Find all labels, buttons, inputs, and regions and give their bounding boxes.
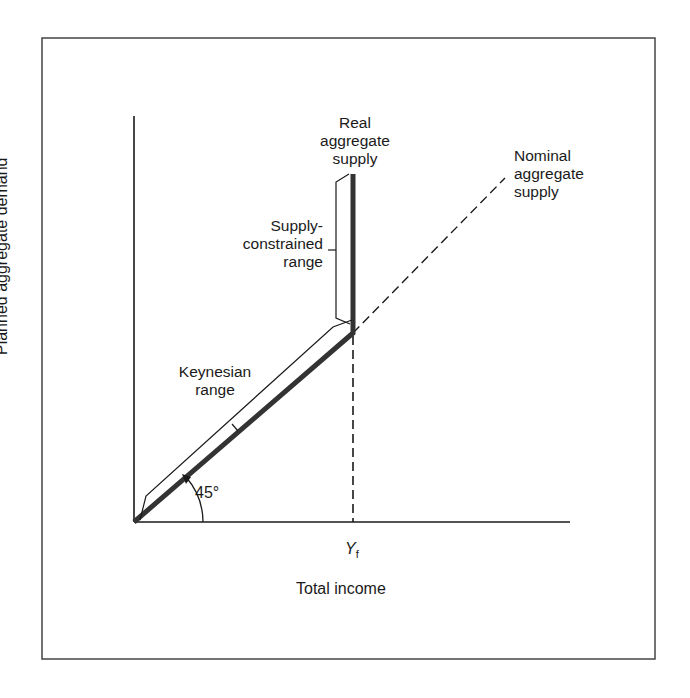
angle-label: 45° (195, 484, 219, 502)
real-supply-label-line3: supply (300, 150, 410, 168)
yf-label-sub: f (356, 548, 359, 560)
nominal-supply-label-line2: aggregate (514, 165, 584, 183)
supply-constrained-label-line1: Supply- (210, 217, 323, 235)
real-supply-label-line1: Real (300, 114, 410, 132)
nominal-supply-label-line3: supply (514, 183, 584, 201)
supply-constrained-label-line2: constrained (210, 235, 323, 253)
keynesian-brace-tick (232, 424, 238, 431)
keynesian-label-line2: range (160, 381, 270, 399)
y-axis-label: Planned aggregate demand (0, 158, 11, 356)
nominal-supply-label-line1: Nominal (514, 147, 584, 165)
nominal-supply-label: Nominal aggregate supply (514, 147, 584, 201)
diagram-stage: Real aggregate supply Nominal aggregate … (0, 0, 690, 698)
keynesian-label-line1: Keynesian (160, 363, 270, 381)
real-supply-label-line2: aggregate (300, 132, 410, 150)
x-axis-label: Total income (296, 580, 386, 598)
keynesian-range-label: Keynesian range (160, 363, 270, 399)
yf-label: Yf (345, 540, 359, 563)
nominal-supply-line (353, 178, 505, 333)
real-supply-label: Real aggregate supply (300, 114, 410, 168)
yf-label-main: Y (345, 540, 356, 557)
supply-constrained-label: Supply- constrained range (210, 217, 323, 271)
supply-constrained-label-line3: range (210, 253, 323, 271)
supply-constrained-brace (336, 174, 350, 324)
